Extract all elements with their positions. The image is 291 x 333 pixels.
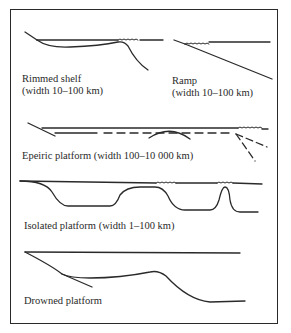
- ramp-title: Ramp: [172, 75, 197, 87]
- ramp-subtitle: (width 10–100 km): [172, 87, 253, 99]
- drowned-platform-title: Drowned platform: [24, 295, 102, 307]
- rimmed-shelf-subtitle: (width 10–100 km): [22, 85, 103, 97]
- ramp-profile: [140, 40, 272, 79]
- rimmed-shelf-profile: [25, 32, 148, 70]
- epeiric-platform-title: Epeiric platform (width 100–10 000 km): [22, 150, 193, 162]
- isolated-platform-title: Isolated platform (width 1–100 km): [24, 220, 174, 232]
- isolated-platform-profile: [20, 181, 262, 212]
- rimmed-shelf-title: Rimmed shelf: [22, 73, 81, 85]
- carbonate-platform-diagram: [0, 0, 291, 333]
